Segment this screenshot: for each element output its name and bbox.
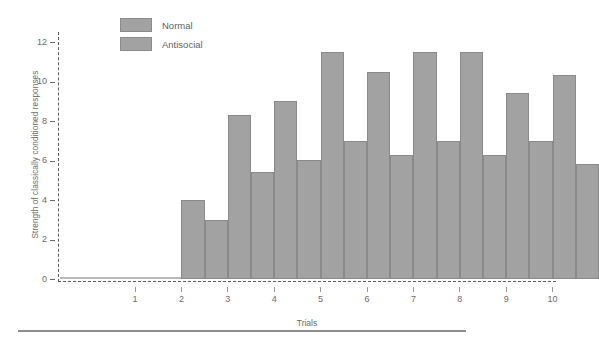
x-tick-label: 9 <box>494 283 518 304</box>
legend-label: Antisocial <box>162 39 203 50</box>
bar <box>228 115 251 279</box>
x-tick-label: 4 <box>262 283 286 304</box>
bar <box>553 75 576 279</box>
x-axis-title: Trials <box>58 318 556 328</box>
bar <box>344 141 367 279</box>
x-tick-label: 6 <box>355 283 379 304</box>
bar <box>529 141 552 279</box>
bar <box>483 155 506 279</box>
legend-swatch-icon <box>120 37 152 51</box>
bar <box>251 172 274 279</box>
y-tick-label: 2 <box>42 234 58 244</box>
bar <box>297 160 320 279</box>
y-tick-label: 4 <box>42 195 58 205</box>
x-axis-line <box>58 281 556 282</box>
chart-legend: Normal Antisocial <box>120 18 203 56</box>
bar <box>437 141 460 279</box>
legend-label: Normal <box>162 20 193 31</box>
bar <box>413 52 436 279</box>
x-tick-label: 8 <box>448 283 472 304</box>
x-tick-label: 3 <box>216 283 240 304</box>
legend-swatch-icon <box>120 18 152 32</box>
bar <box>576 164 599 279</box>
y-tick-label: 6 <box>42 155 58 165</box>
y-tick-label: 8 <box>42 116 58 126</box>
x-tick-label: 1 <box>123 283 147 304</box>
y-tick-label: 10 <box>37 76 58 86</box>
x-tick-label: 2 <box>169 283 193 304</box>
y-tick-label: 0 <box>42 274 58 284</box>
legend-item-normal: Normal <box>120 18 203 32</box>
plot-area: 024681012 12345678910 Trials <box>58 30 556 282</box>
bar <box>181 200 204 279</box>
bar <box>205 220 228 279</box>
bar <box>390 155 413 279</box>
bar <box>321 52 344 279</box>
bottom-divider <box>18 330 466 332</box>
x-tick-label: 7 <box>401 283 425 304</box>
x-tick-label: 5 <box>309 283 333 304</box>
bar <box>367 72 390 279</box>
bar <box>506 93 529 279</box>
legend-item-antisocial: Antisocial <box>120 37 203 51</box>
bar <box>460 52 483 279</box>
y-tick-label: 12 <box>37 37 58 47</box>
y-axis-line <box>58 32 59 282</box>
bar <box>274 101 297 279</box>
x-tick-label: 10 <box>541 283 565 304</box>
